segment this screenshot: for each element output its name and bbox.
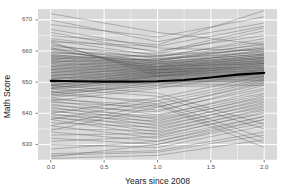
y-tick-label: 650 [10, 79, 32, 85]
x-tick-label: 2.0 [251, 164, 277, 170]
y-tick-label: 660 [10, 48, 32, 54]
y-tick-label: 670 [10, 16, 32, 22]
math-score-spaghetti-chart: Math Score Years since 2008 630640650660… [0, 0, 290, 193]
x-tick-label: 0.0 [38, 164, 64, 170]
y-tick-label: 640 [10, 110, 32, 116]
x-tick-label: 1.0 [145, 164, 171, 170]
y-axis-title: Math Score [0, 0, 14, 193]
y-tick-label: 630 [10, 141, 32, 147]
x-tick-label: 0.5 [91, 164, 117, 170]
x-tick-label: 1.5 [198, 164, 224, 170]
x-axis-title: Years since 2008 [38, 176, 277, 186]
